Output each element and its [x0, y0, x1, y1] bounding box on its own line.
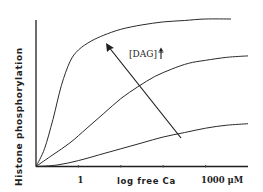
- series-line-medium-dag: [36, 56, 248, 167]
- up-arrow-icon: [159, 48, 164, 60]
- dag-arrow-head: [106, 43, 114, 52]
- dag-arrow-shaft: [108, 46, 181, 138]
- chart: [DAG] Histone phosphorylation 1 log free…: [0, 0, 263, 192]
- series-curves: [36, 19, 248, 167]
- x-axis-label: log free Ca: [117, 176, 176, 186]
- series-line-high-dag: [36, 19, 231, 167]
- x-tick-label-1000: 1000 μM: [201, 175, 244, 185]
- x-tick-label-1: 1: [78, 175, 84, 185]
- y-axis-label: Histone phosphorylation: [14, 47, 24, 186]
- dag-annotation: [DAG]: [129, 49, 157, 59]
- dag-label: [DAG]: [129, 49, 157, 59]
